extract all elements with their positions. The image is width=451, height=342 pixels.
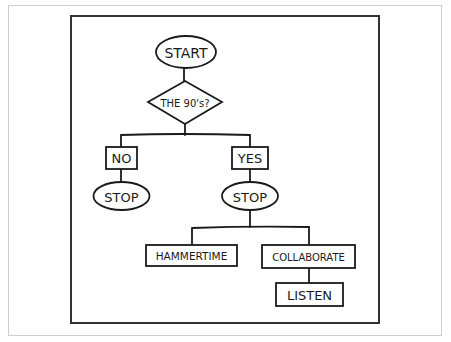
flowchart: START THE 90's? NO STOP YES STOP HAMMERT…: [0, 0, 451, 342]
node-no-label: NO: [112, 151, 132, 166]
edge-branch-horizontal: [121, 134, 250, 147]
node-stop-no-label: STOP: [104, 190, 138, 205]
node-start: START: [156, 36, 216, 68]
node-listen: LISTEN: [276, 283, 343, 306]
node-stop-yes: STOP: [222, 182, 278, 210]
node-stop-yes-label: STOP: [233, 190, 267, 205]
node-hammertime: HAMMERTIME: [146, 245, 237, 266]
node-start-label: START: [164, 45, 208, 61]
node-decision: THE 90's?: [148, 81, 222, 124]
node-decision-label: THE 90's?: [159, 98, 209, 109]
node-no: NO: [106, 147, 137, 169]
node-stop-no: STOP: [94, 182, 150, 210]
node-yes-label: YES: [237, 151, 262, 166]
node-listen-label: LISTEN: [287, 288, 332, 303]
node-hammertime-label: HAMMERTIME: [156, 250, 228, 262]
edge-sub-branch-horizontal: [192, 227, 309, 245]
node-collaborate: COLLABORATE: [262, 245, 355, 268]
node-yes: YES: [232, 147, 268, 169]
node-collaborate-label: COLLABORATE: [272, 252, 345, 263]
